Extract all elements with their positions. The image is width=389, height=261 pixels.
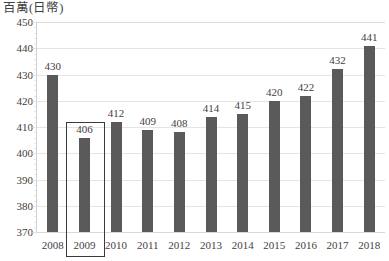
bar-value-label-2010: 412 [99, 108, 133, 119]
bar-2015[interactable] [269, 101, 280, 232]
y-axis-minor-tick [34, 143, 36, 144]
bar-value-label-2014: 415 [226, 100, 260, 111]
y-axis-minor-tick [34, 185, 36, 186]
y-axis-minor-tick [34, 127, 36, 128]
bar-value-label-2018: 441 [352, 32, 386, 43]
y-axis-minor-tick [34, 54, 36, 55]
bar-value-label-2017: 432 [321, 55, 355, 66]
bar-value-label-2012: 408 [162, 118, 196, 129]
x-axis-label-2012[interactable]: 2012 [162, 239, 196, 251]
bar-2016[interactable] [300, 96, 311, 233]
gridline [37, 48, 385, 49]
y-axis-minor-tick [34, 211, 36, 212]
y-axis-minor-tick [34, 159, 36, 160]
y-axis-minor-tick [34, 106, 36, 107]
bar-2012[interactable] [174, 132, 185, 232]
x-axis-label-2016[interactable]: 2016 [289, 239, 323, 251]
y-axis-minor-tick [34, 117, 36, 118]
x-axis-label-2013[interactable]: 2013 [194, 239, 228, 251]
x-axis-label-2009[interactable]: 2009 [67, 239, 101, 251]
y-axis-minor-tick [34, 201, 36, 202]
bar-value-label-2016: 422 [289, 82, 323, 93]
y-axis-tick-label: 440 [3, 43, 33, 54]
y-axis-minor-tick [34, 138, 36, 139]
y-axis-tick-label: 430 [3, 70, 33, 81]
y-axis-minor-tick [34, 22, 36, 23]
y-axis-minor-tick [34, 216, 36, 217]
y-axis-tick-label: 400 [3, 148, 33, 159]
y-axis-minor-tick [34, 96, 36, 97]
x-axis-label-2018[interactable]: 2018 [352, 239, 386, 251]
x-axis-label-2017[interactable]: 2017 [321, 239, 355, 251]
y-axis-minor-tick [34, 75, 36, 76]
x-axis-label-2011[interactable]: 2011 [131, 239, 165, 251]
y-axis-tick-label: 420 [3, 96, 33, 107]
y-axis-minor-tick [34, 164, 36, 165]
y-axis-minor-tick [34, 27, 36, 28]
y-axis-minor-tick [34, 132, 36, 133]
y-axis-tick-label: 390 [3, 175, 33, 186]
y-axis-minor-tick [34, 38, 36, 39]
bar-2017[interactable] [332, 69, 343, 232]
bar-value-label-2011: 409 [131, 116, 165, 127]
bar-value-label-2015: 420 [257, 87, 291, 98]
bar-value-label-2009: 406 [67, 124, 101, 135]
y-axis-minor-tick [34, 190, 36, 191]
y-axis-minor-tick [34, 222, 36, 223]
y-axis-minor-tick [34, 101, 36, 102]
y-axis-minor-tick [34, 85, 36, 86]
bar-value-label-2008: 430 [36, 61, 70, 72]
y-axis-minor-tick [34, 180, 36, 181]
y-axis-tick-label: 370 [3, 227, 33, 238]
y-axis-minor-tick [34, 153, 36, 154]
y-axis-minor-tick [34, 227, 36, 228]
y-axis-minor-tick [34, 122, 36, 123]
y-axis-minor-tick [34, 43, 36, 44]
bar-chart: 百萬(日幣) 450440430420410400390380370 43020… [0, 0, 389, 261]
y-axis-minor-tick [34, 33, 36, 34]
y-axis-minor-tick [34, 195, 36, 196]
y-axis-tick-label: 410 [3, 122, 33, 133]
x-axis-label-2008[interactable]: 2008 [36, 239, 70, 251]
bar-2013[interactable] [206, 117, 217, 233]
y-axis-labels: 450440430420410400390380370 [0, 0, 33, 261]
y-axis-minor-tick [34, 80, 36, 81]
y-axis-minor-tick [34, 206, 36, 207]
y-axis-minor-tick [34, 169, 36, 170]
y-axis-minor-tick [34, 48, 36, 49]
y-axis-tick-label: 380 [3, 201, 33, 212]
bar-2018[interactable] [364, 46, 375, 232]
bar-2008[interactable] [47, 75, 58, 233]
gridline [37, 22, 385, 23]
gridline [37, 232, 385, 233]
y-axis-minor-tick [34, 111, 36, 112]
y-axis-tick-label: 450 [3, 17, 33, 28]
y-axis-minor-tick [34, 174, 36, 175]
bar-2009[interactable] [79, 138, 90, 233]
x-axis-label-2015[interactable]: 2015 [257, 239, 291, 251]
bar-2014[interactable] [237, 114, 248, 232]
bar-value-label-2013: 414 [194, 103, 228, 114]
bar-2010[interactable] [111, 122, 122, 232]
x-axis-label-2014[interactable]: 2014 [226, 239, 260, 251]
y-axis-minor-tick [34, 148, 36, 149]
y-axis-minor-tick [34, 90, 36, 91]
x-axis-label-2010[interactable]: 2010 [99, 239, 133, 251]
bar-2011[interactable] [142, 130, 153, 232]
y-axis-minor-tick [34, 232, 36, 233]
